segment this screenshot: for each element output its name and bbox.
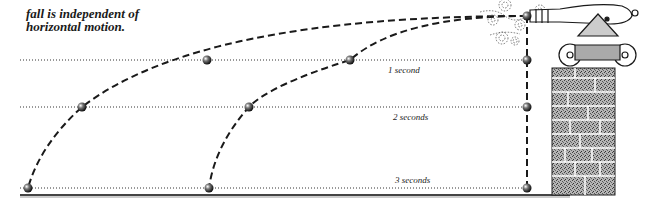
ball-far-1s (203, 56, 212, 65)
ball-drop-1s (523, 56, 532, 65)
stone-wall (552, 68, 615, 195)
ball-drop-3s (523, 184, 532, 193)
ball-far-3s (24, 184, 33, 193)
ball-near-2s (245, 103, 254, 112)
trajectory-near (209, 16, 527, 188)
ball-near-3s (205, 184, 214, 193)
projectile-diagram: 1 second 2 seconds 3 seconds (0, 0, 649, 206)
time-lines (20, 60, 527, 188)
label-3-seconds: 3 seconds (394, 175, 431, 185)
trajectory-far (28, 16, 527, 188)
ball-cannon-mouth (523, 12, 532, 21)
trajectories (28, 16, 527, 188)
label-2-seconds: 2 seconds (393, 112, 429, 122)
ball-far-2s (78, 103, 87, 112)
balls (24, 12, 532, 193)
ball-drop-2s (523, 103, 532, 112)
cannon-icon (530, 5, 638, 66)
ball-near-1s (346, 56, 355, 65)
label-1-second: 1 second (388, 65, 420, 75)
